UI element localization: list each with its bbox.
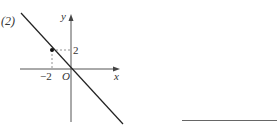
y-axis-label: y: [60, 10, 66, 22]
coordinate-graph: y x O −2 2: [0, 0, 280, 129]
x-axis-label: x: [113, 70, 119, 82]
point-marker: [50, 48, 54, 52]
y-axis-arrow-icon: [69, 14, 74, 21]
origin-label: O: [62, 70, 70, 82]
x-tick-label: −2: [40, 70, 52, 82]
answer-blank-line[interactable]: [182, 120, 277, 121]
y-tick-label: 2: [73, 44, 79, 56]
